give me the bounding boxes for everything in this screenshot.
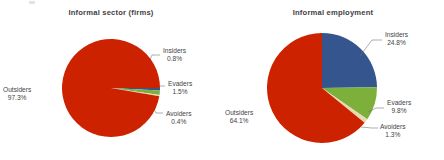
pie-label-outsiders-left-name: Outsiders (3, 86, 31, 94)
pie-label-evaders-right-name: Evaders (387, 99, 411, 107)
pie-label-insiders-left-name: Insiders (163, 47, 186, 55)
pie-label-avoiders-left: Avoiders 0.4% (166, 110, 192, 126)
pie-label-evaders-left: Evaders 1.5% (168, 80, 192, 96)
pie-label-outsiders-right-value: 64.1% (225, 117, 253, 125)
pie-label-evaders-right: Evaders 9.8% (387, 99, 411, 115)
pie-label-avoiders-right: Avoiders 1.3% (380, 123, 406, 139)
pie-label-evaders-left-name: Evaders (168, 80, 192, 88)
slice-insiders-right (322, 33, 377, 88)
pie-slices-right (267, 33, 377, 143)
pie-label-avoiders-left-value: 0.4% (166, 118, 192, 126)
pie-label-insiders-right: Insiders 24.8% (385, 31, 408, 47)
panel-informal-sector: Informal sector (firms) Insiders 0.8% Ev… (0, 0, 222, 160)
pie-label-insiders-right-value: 24.8% (385, 39, 408, 47)
pie-label-evaders-left-value: 1.5% (168, 88, 192, 96)
pie-label-outsiders-right: Outsiders 64.1% (225, 109, 253, 125)
pie-chart-informal-sector: Insiders 0.8% Evaders 1.5% Avoiders 0.4%… (0, 0, 222, 160)
pie-label-insiders-right-name: Insiders (385, 31, 408, 39)
pie-label-avoiders-right-name: Avoiders (380, 123, 406, 131)
pie-slices-left (62, 39, 160, 137)
pie-chart-figure: Informal sector (firms) Insiders 0.8% Ev… (0, 0, 444, 160)
leader-line-avoiders-right (361, 127, 378, 128)
pie-label-outsiders-left-value: 97.3% (3, 94, 31, 102)
pie-label-insiders-left-value: 0.8% (163, 55, 186, 63)
pie-label-outsiders-left: Outsiders 97.3% (3, 86, 31, 102)
pie-label-avoiders-right-value: 1.3% (380, 131, 406, 139)
pie-label-evaders-right-value: 9.8% (387, 107, 411, 115)
pie-label-outsiders-right-name: Outsiders (225, 109, 253, 117)
pie-label-avoiders-left-name: Avoiders (166, 110, 192, 118)
pie-label-insiders-left: Insiders 0.8% (163, 47, 186, 63)
panel-informal-employment: Informal employment Insiders 24.8% Evade… (222, 0, 444, 160)
pie-chart-informal-employment: Insiders 24.8% Evaders 9.8% Avoiders 1.3… (222, 0, 444, 160)
pie-svg-right (222, 0, 444, 160)
